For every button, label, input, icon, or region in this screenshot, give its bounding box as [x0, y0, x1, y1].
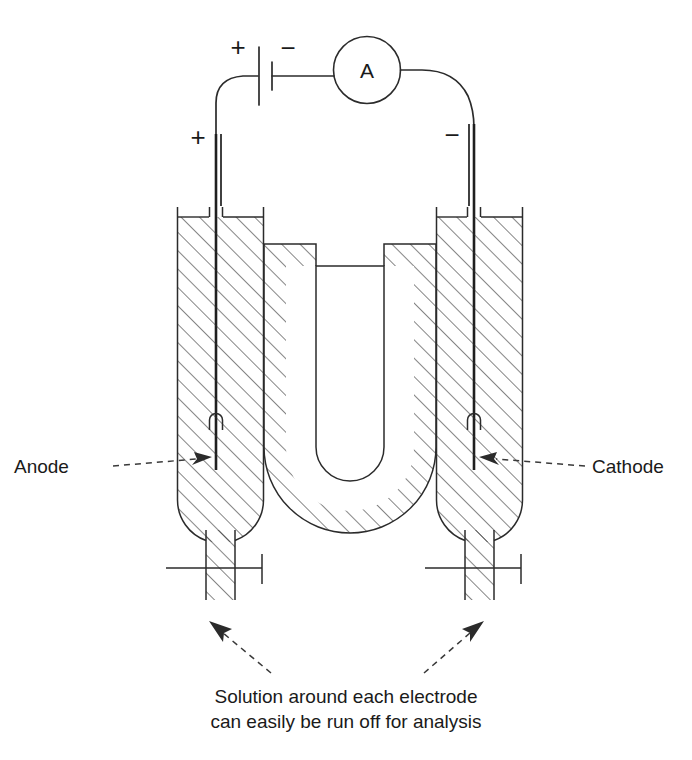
callouts-group: Anode Cathode Solution around each elect… [14, 452, 664, 732]
ammeter-label: A [360, 59, 374, 82]
anode-solution [170, 210, 275, 560]
electrolysis-cell-diagram: + − A + − [0, 0, 692, 760]
cathode-polarity-sign: − [444, 120, 459, 150]
wire-right [401, 70, 475, 160]
left-tap-leader-line [223, 633, 271, 673]
wire-left [216, 76, 258, 160]
bridge-inner-void [316, 266, 384, 481]
left-tap-arrowhead [209, 621, 232, 642]
right-tap-leader-line [424, 633, 470, 673]
anode-label: Anode [14, 456, 69, 477]
anode-polarity-sign: + [190, 122, 205, 152]
bridge-solution [258, 238, 443, 548]
solution-fill [170, 210, 535, 610]
caption-line-2: can easily be run off for analysis [210, 711, 481, 732]
figure-root: + − A + − [0, 0, 692, 760]
right-tap-arrowhead [462, 621, 484, 642]
cathode-solution [430, 210, 535, 560]
circuit-group: + − A [216, 32, 474, 160]
caption-line-1: Solution around each electrode [214, 686, 477, 707]
battery-negative-sign: − [280, 33, 295, 63]
cathode-label: Cathode [592, 456, 664, 477]
battery-positive-sign: + [230, 32, 245, 62]
